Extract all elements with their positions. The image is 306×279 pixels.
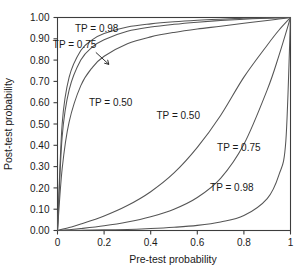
y-axis-title: Post-test probability — [2, 77, 14, 170]
y-tick-label: 0.00 — [30, 225, 50, 236]
x-tick-label: 0 — [55, 237, 61, 248]
y-tick-label: 0.50 — [30, 119, 50, 130]
y-tick-label: 0.90 — [30, 33, 50, 44]
x-tick-label: 0.4 — [144, 237, 158, 248]
label-lower-050: TP = 0.50 — [157, 110, 201, 121]
x-tick-label: 1 — [288, 237, 294, 248]
y-tick-label: 0.60 — [30, 97, 50, 108]
label-upper-098: TP = 0.98 — [75, 23, 119, 34]
x-axis-title: Pre-test probability — [129, 253, 217, 265]
y-tick-label: 0.10 — [30, 204, 50, 215]
label-upper-050: TP = 0.50 — [89, 97, 133, 108]
probability-curves-chart: 00.20.40.60.81 0.000.100.200.300.400.500… — [0, 0, 306, 279]
y-tick-label: 0.80 — [30, 55, 50, 66]
x-tick-label: 0.8 — [237, 237, 251, 248]
y-tick-label: 0.70 — [30, 76, 50, 87]
y-tick-label: 0.20 — [30, 183, 50, 194]
label-lower-075: TP = 0.75 — [217, 142, 261, 153]
figure-container: 00.20.40.60.81 0.000.100.200.300.400.500… — [0, 0, 306, 279]
y-tick-label: 1.00 — [30, 12, 50, 23]
label-upper-075: TP = 0.75 — [53, 39, 97, 50]
label-lower-098: TP = 0.98 — [210, 182, 254, 193]
x-tick-label: 0.6 — [190, 237, 204, 248]
y-tick-label: 0.30 — [30, 161, 50, 172]
x-tick-label: 0.2 — [97, 237, 111, 248]
y-tick-label: 0.40 — [30, 140, 50, 151]
